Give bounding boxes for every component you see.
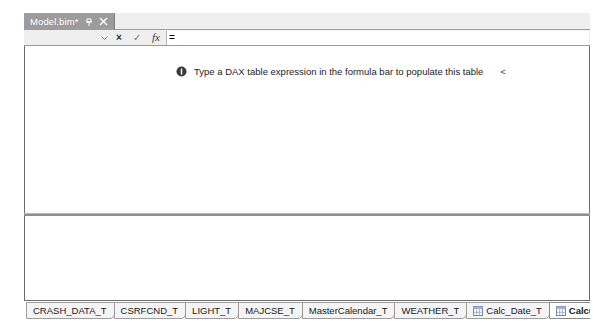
table-tabstrip: CRASH_DATA_TCSRFCND_TLIGHT_TMAJCSE_TMast… [26, 302, 590, 322]
measure-grid-pane[interactable] [24, 216, 590, 301]
calculated-table-icon [556, 306, 566, 316]
formula-name-box[interactable] [24, 31, 110, 45]
accept-formula-button[interactable]: ✓ [128, 30, 146, 45]
table-tab-label: MasterCalendar_T [309, 305, 388, 316]
close-icon[interactable] [99, 16, 109, 27]
table-tab-majcse-t[interactable]: MAJCSE_T [238, 302, 303, 319]
table-tab-weather-t[interactable]: WEATHER_T [394, 302, 467, 319]
table-tab-label: WEATHER_T [401, 305, 459, 316]
chevron-down-icon[interactable] [101, 36, 108, 41]
document-tabstrip: Model.bim* [24, 13, 590, 30]
table-tab-mastercalendar-t[interactable]: MasterCalendar_T [302, 302, 396, 319]
tabular-model-designer-window: Model.bim* × ✓ fx [24, 13, 590, 322]
message-caret: < [500, 67, 505, 77]
table-tab-calc-date-t[interactable]: Calc_Date_T [466, 302, 549, 319]
insert-function-icon[interactable]: fx [146, 30, 166, 45]
table-tab-calculatedtable-1[interactable]: CalculatedTable 1 [549, 302, 590, 319]
table-tab-label: LIGHT_T [192, 305, 231, 316]
table-tab-label: CRASH_DATA_T [33, 305, 107, 316]
calculated-table-icon [473, 306, 483, 316]
table-tab-light-t[interactable]: LIGHT_T [185, 302, 239, 319]
document-tab-label: Model.bim* [30, 16, 79, 27]
cancel-formula-button[interactable]: × [110, 30, 128, 45]
empty-table-message: Type a DAX table expression in the formu… [176, 66, 506, 77]
table-tab-label: CalculatedTable 1 [569, 305, 590, 316]
table-tab-label: Calc_Date_T [486, 305, 541, 316]
table-tab-csrfcnd-t[interactable]: CSRFCND_T [114, 302, 187, 319]
pin-icon[interactable] [84, 16, 94, 27]
table-tab-crash-data-t[interactable]: CRASH_DATA_T [26, 302, 115, 319]
document-tab-model-bim[interactable]: Model.bim* [24, 13, 115, 30]
table-tab-label: CSRFCND_T [121, 305, 179, 316]
formula-input[interactable] [166, 31, 589, 45]
table-tab-label: MAJCSE_T [245, 305, 295, 316]
info-icon [176, 66, 187, 77]
table-data-grid[interactable]: Type a DAX table expression in the formu… [24, 46, 590, 213]
formula-bar: × ✓ fx [24, 30, 590, 46]
empty-table-message-text: Type a DAX table expression in the formu… [194, 66, 483, 77]
